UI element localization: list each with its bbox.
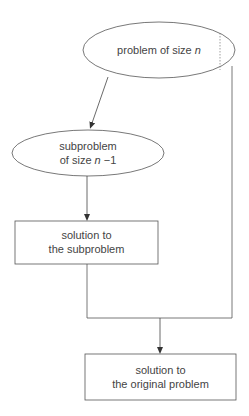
subproblem-line2-prefix: of size: [60, 154, 95, 166]
edge-solution-merge: [87, 264, 232, 318]
problem-var: n: [195, 44, 201, 56]
flowchart-canvas: [0, 0, 249, 416]
edge-problem-to-subproblem: [91, 77, 108, 126]
subproblem-label: subproblem of size n −1: [12, 139, 164, 167]
sub-solution-label: solution to the subproblem: [15, 228, 158, 256]
problem-text: problem of size: [117, 44, 195, 56]
sub-solution-line1: solution to: [15, 228, 158, 242]
problem-label: problem of size n: [83, 43, 235, 57]
sub-solution-line2: the subproblem: [15, 242, 158, 256]
final-solution-line1: solution to: [85, 363, 236, 377]
subproblem-line2: of size n −1: [12, 153, 164, 167]
final-solution-label: solution to the original problem: [85, 363, 236, 391]
subproblem-line1: subproblem: [12, 139, 164, 153]
final-solution-line2: the original problem: [85, 377, 236, 391]
subproblem-line2-suffix: −1: [101, 154, 117, 166]
